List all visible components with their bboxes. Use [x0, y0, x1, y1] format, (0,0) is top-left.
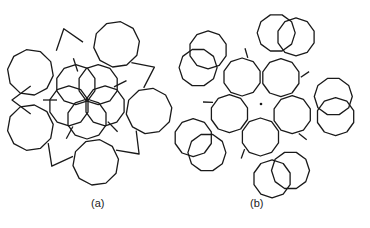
star-spike	[56, 29, 83, 51]
inner-overlap-decagon	[57, 65, 95, 105]
connector-edge	[299, 134, 307, 140]
outer-pair-decagon	[254, 160, 290, 198]
inner-decagon	[242, 118, 278, 156]
inner-overlap-decagon	[86, 86, 124, 126]
inner-decagon	[263, 59, 299, 97]
outer-pair-decagon	[175, 119, 211, 157]
outer-decagon	[73, 140, 119, 185]
outer-pair-decagon	[314, 78, 352, 114]
outer-decagon	[8, 105, 54, 150]
star-spike	[116, 131, 139, 154]
outer-decagon	[94, 22, 140, 67]
panel-a-label: (a)	[91, 197, 104, 209]
connector-edge	[245, 48, 248, 58]
outer-decagon	[126, 88, 172, 133]
outer-pair-decagon	[278, 18, 314, 56]
inner-decagon	[211, 95, 247, 133]
outer-pair-decagon	[318, 98, 354, 136]
inner-decagon	[224, 58, 260, 96]
inner-overlap-decagon	[68, 99, 106, 139]
outer-decagon	[8, 50, 54, 95]
panel-b-label: (b)	[250, 197, 263, 209]
star-spike	[131, 63, 154, 88]
connector-edge	[114, 81, 127, 87]
panel-a-diagram	[8, 22, 172, 185]
connector-edge	[241, 149, 244, 158]
star-spike	[12, 86, 31, 114]
inner-overlap-decagon	[50, 86, 88, 126]
inner-overlap-decagon	[79, 65, 117, 105]
connector-edge	[301, 72, 309, 78]
outer-pair-decagon	[188, 135, 226, 171]
star-spike	[48, 143, 73, 166]
inner-decagon	[274, 96, 310, 134]
panel-b-diagram	[175, 15, 354, 198]
center-dot	[260, 103, 263, 106]
decagon-tiling-figure	[0, 0, 370, 228]
